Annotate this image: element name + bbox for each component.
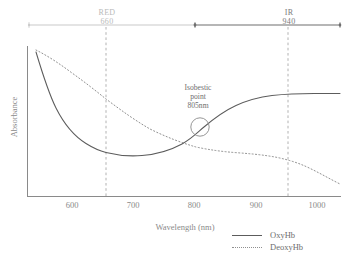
band-label-ir: IR 940 (268, 8, 310, 26)
band-ir-name: IR (268, 8, 310, 17)
legend-swatch-solid-icon (232, 232, 262, 239)
legend-item-oxyhb: OxyHb (232, 229, 303, 241)
series-deoxyhb-curve (36, 50, 340, 184)
isobestic-line-1: Isobestic (166, 83, 230, 92)
isobestic-annotation: Isobestic point 805nm (166, 83, 230, 111)
legend-label-oxyhb: OxyHb (270, 230, 295, 240)
xtick-900: 900 (236, 200, 276, 210)
x-axis-title: Wavelength (nm) (120, 222, 250, 232)
legend-swatch-dotted-icon (232, 244, 262, 251)
xtick-800: 800 (174, 200, 214, 210)
chart-legend: OxyHb DeoxyHb (232, 229, 303, 253)
isobestic-line-2: point (166, 92, 230, 101)
band-red-value: 660 (86, 17, 128, 26)
legend-item-deoxyhb: DeoxyHb (232, 241, 303, 253)
y-axis-title: Absorbance (9, 87, 19, 147)
legend-label-deoxyhb: DeoxyHb (270, 242, 303, 252)
xtick-700: 700 (113, 200, 153, 210)
absorbance-spectrum-figure: RED 660 IR 940 Isobestic point 805nm 600… (0, 0, 351, 264)
isobestic-point-marker (191, 118, 209, 136)
band-label-red: RED 660 (86, 8, 128, 26)
xtick-1000: 1000 (297, 200, 337, 210)
band-red-name: RED (86, 8, 128, 17)
isobestic-line-3: 805nm (166, 101, 230, 110)
band-ir-value: 940 (268, 17, 310, 26)
xtick-600: 600 (52, 200, 92, 210)
axis-frame (27, 46, 341, 197)
